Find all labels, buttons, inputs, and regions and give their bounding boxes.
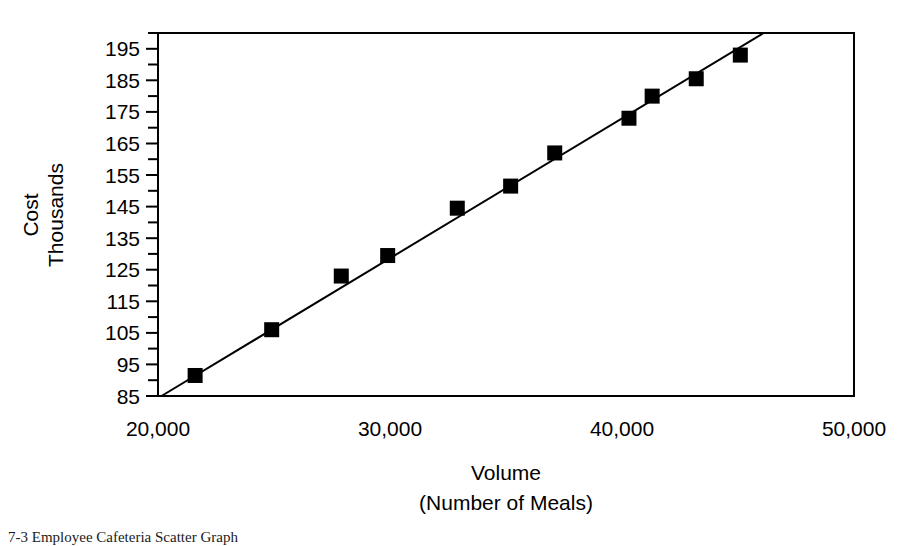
y-tick-label: 115 xyxy=(107,290,140,313)
y-tick-label: 145 xyxy=(105,195,140,218)
plot-area-border xyxy=(158,33,854,396)
x-axis-tick-labels: 20,000 30,000 40,000 50,000 xyxy=(126,417,886,440)
x-tick-label: 20,000 xyxy=(126,417,190,440)
x-tick-label: 40,000 xyxy=(590,417,654,440)
y-tick-label: 155 xyxy=(105,164,140,187)
data-point xyxy=(645,89,660,104)
scatter-chart-figure: 85 95 105 115 125 135 145 155 165 175 18… xyxy=(0,0,914,546)
y-tick-label: 135 xyxy=(105,227,140,250)
x-axis-title: Volume (Number of Meals) xyxy=(419,461,593,514)
y-tick-label: 185 xyxy=(105,69,140,92)
y-tick-label: 165 xyxy=(105,132,140,155)
figure-caption: 7-3 Employee Cafeteria Scatter Graph xyxy=(8,529,238,545)
y-axis-title: Cost Thousands xyxy=(19,163,67,267)
plot-frame xyxy=(158,33,854,396)
x-axis-title-line1: Volume xyxy=(471,461,541,484)
data-point xyxy=(188,368,203,383)
x-tick-label: 50,000 xyxy=(822,417,886,440)
x-axis-title-line2: (Number of Meals) xyxy=(419,491,593,514)
y-axis-title-line2: Thousands xyxy=(44,163,67,267)
data-point-markers xyxy=(188,48,748,383)
y-tick-label: 175 xyxy=(105,100,140,123)
y-tick-label: 125 xyxy=(105,258,140,281)
y-axis-title-line1: Cost xyxy=(19,193,42,236)
y-tick-label: 95 xyxy=(117,353,140,376)
data-point xyxy=(380,248,395,263)
data-point xyxy=(547,145,562,160)
data-point xyxy=(450,201,465,216)
data-point xyxy=(733,48,748,63)
y-tick-label: 195 xyxy=(105,37,140,60)
data-point xyxy=(334,269,349,284)
y-tick-label: 85 xyxy=(117,385,140,408)
chart-canvas: 85 95 105 115 125 135 145 155 165 175 18… xyxy=(0,0,914,546)
caption-label: 7-3 Employee Cafeteria Scatter Graph xyxy=(8,529,238,545)
data-point xyxy=(689,71,704,86)
data-point xyxy=(264,322,279,337)
data-point xyxy=(503,179,518,194)
y-axis-tick-labels: 85 95 105 115 125 135 145 155 165 175 18… xyxy=(105,37,140,407)
y-tick-label: 105 xyxy=(105,321,140,344)
x-tick-label: 30,000 xyxy=(358,417,422,440)
data-point xyxy=(621,111,636,126)
